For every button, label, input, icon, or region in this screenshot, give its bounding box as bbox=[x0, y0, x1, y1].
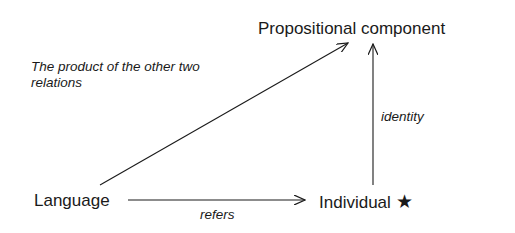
identity-edge-label: identity bbox=[381, 109, 424, 125]
product-label-line2: relations bbox=[31, 75, 200, 91]
product-label-line1: The product of the other two bbox=[31, 59, 200, 75]
product-edge-label: The product of the other two relations bbox=[31, 59, 200, 90]
refers-edge-label: refers bbox=[200, 207, 235, 223]
star-icon: ★ bbox=[396, 191, 413, 212]
language-node: Language bbox=[34, 192, 110, 209]
propositional-component-node: Propositional component bbox=[258, 20, 445, 37]
individual-node: Individual ★ bbox=[319, 192, 413, 211]
individual-label: Individual bbox=[319, 193, 391, 212]
